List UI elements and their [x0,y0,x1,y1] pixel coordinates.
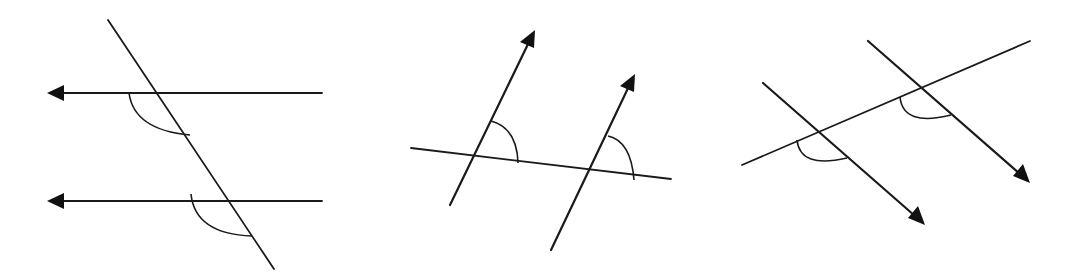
transversal [108,20,274,269]
parallel-line-right [868,41,1020,174]
arrowhead-left-icon [47,193,64,209]
parallel-line-left [450,40,530,205]
arrowhead-down-icon [908,206,925,225]
diagram-1 [47,20,322,269]
diagram-2 [411,30,671,250]
angle-arc-left [491,121,518,163]
arrowhead-left-icon [47,85,64,101]
diagram-3 [742,41,1030,225]
arrowhead-down-icon [1013,164,1030,183]
parallel-line-left [763,83,915,216]
parallel-lines-figure [0,0,1079,277]
